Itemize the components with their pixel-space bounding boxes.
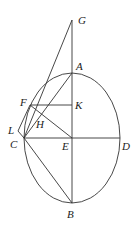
line-LC bbox=[18, 131, 24, 138]
label-G: G bbox=[78, 14, 86, 26]
label-F: F bbox=[19, 96, 27, 108]
label-A: A bbox=[75, 60, 83, 72]
diagram-svg: G A F K H L C E D B bbox=[0, 0, 139, 226]
label-D: D bbox=[121, 140, 130, 152]
label-L: L bbox=[7, 124, 14, 136]
geometry-diagram: G A F K H L C E D B bbox=[0, 0, 139, 226]
label-C: C bbox=[10, 138, 18, 150]
line-GC-tangent bbox=[24, 20, 72, 138]
label-B: B bbox=[67, 208, 74, 220]
label-H: H bbox=[35, 118, 45, 130]
label-K: K bbox=[74, 99, 83, 111]
label-E: E bbox=[61, 140, 69, 152]
